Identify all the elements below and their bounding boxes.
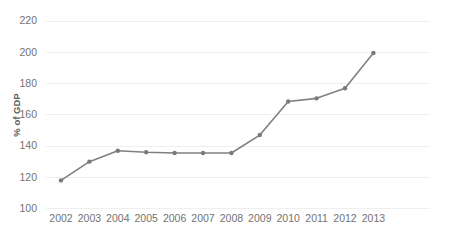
chart-background [0,0,449,238]
y-axis-tick-label: 220 [19,14,37,26]
data-point-marker [59,178,63,182]
y-axis-tick-label: 180 [19,77,37,89]
data-point-marker [343,86,347,90]
data-point-marker [87,159,91,163]
x-axis-tick-label: 2012 [333,212,357,224]
x-axis-tick-label: 2011 [305,212,328,224]
x-axis-tick-label: 2006 [163,212,187,224]
data-point-marker [314,96,318,100]
y-axis-tick-label: 160 [19,108,37,120]
data-point-marker [229,151,233,155]
data-point-marker [201,151,205,155]
data-point-marker [144,150,148,154]
x-axis-tick-label: 2013 [362,212,386,224]
x-axis-tick-label: 2010 [277,212,301,224]
line-chart: 100120140160180200220 200220032004200520… [0,0,449,238]
y-axis-tick-label: 200 [19,46,37,58]
data-point-marker [116,148,120,152]
x-axis-tick-label: 2004 [106,212,130,224]
x-axis-tick-label: 2005 [135,212,159,224]
data-point-marker [286,99,290,103]
y-axis-tick-label: 120 [19,171,37,183]
data-point-marker [258,133,262,137]
y-axis-tick-label: 100 [19,202,37,214]
data-point-marker [172,151,176,155]
x-axis-tick-label: 2003 [78,212,102,224]
y-axis-tick-label: 140 [19,139,37,151]
x-axis-tick-label: 2007 [191,212,215,224]
x-axis-tick-label: 2002 [49,212,73,224]
chart-container: 100120140160180200220 200220032004200520… [0,0,449,238]
x-axis-tick-label: 2009 [248,212,272,224]
y-axis-title: % of GDP [11,93,22,137]
x-axis-tick-label: 2008 [220,212,244,224]
data-point-marker [371,51,375,55]
